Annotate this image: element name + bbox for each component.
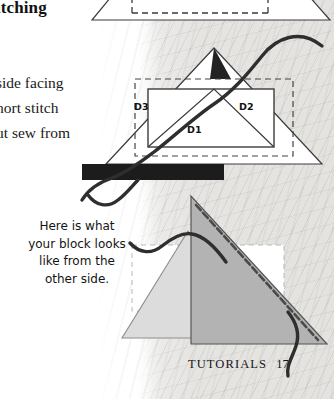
footer-section-label: TUTORIALS	[188, 357, 267, 371]
body-line-3: ut sew from	[0, 120, 70, 145]
body-line-2: hort stitch	[0, 95, 70, 120]
diagram-caption: Here is what your block looks like from …	[8, 218, 146, 288]
body-paragraph: side facing hort stitch ut sew from	[0, 70, 70, 145]
body-line-1: side facing	[0, 70, 70, 95]
page-footer: TUTORIALS17	[188, 357, 289, 372]
caption-thread-curve-upper	[88, 180, 138, 205]
caption-line-3: like from the	[8, 253, 146, 271]
tutorial-page-scan: D3 D2 D1 itching side facing hort stitch…	[0, 0, 334, 399]
diagram-bottom	[0, 0, 334, 399]
caption-line-4: other side.	[8, 271, 146, 289]
footer-page-number: 17	[276, 357, 289, 371]
caption-line-1: Here is what	[8, 218, 146, 236]
page-title: itching	[0, 0, 47, 18]
bottom-dark-triangle	[191, 196, 327, 344]
caption-line-2: your block looks	[8, 236, 146, 254]
